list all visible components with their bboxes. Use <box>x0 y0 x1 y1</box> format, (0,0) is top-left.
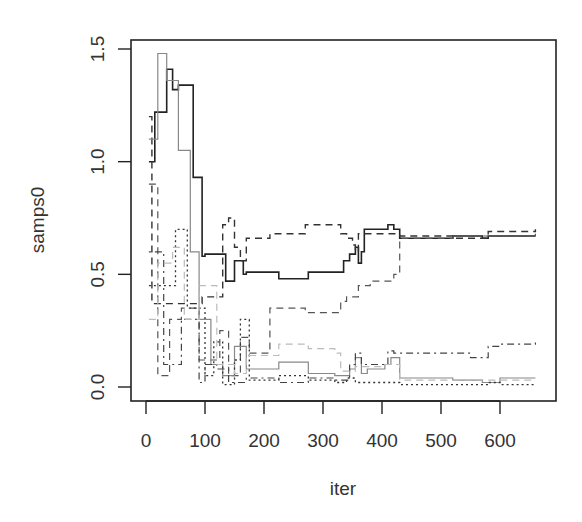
x-tick-label: 600 <box>484 430 516 451</box>
x-tick-label: 100 <box>189 430 221 451</box>
x-axis-label: iter <box>330 478 357 499</box>
y-tick-label: 0.0 <box>87 374 108 400</box>
chart-root: 0100200300400500600 0.00.51.01.5 iter sa… <box>0 0 582 522</box>
series-line-6 <box>149 229 536 384</box>
y-tick-label: 1.0 <box>87 148 108 174</box>
x-tick-label: 200 <box>248 430 280 451</box>
step-line-plot: 0100200300400500600 0.00.51.01.5 iter sa… <box>0 0 582 522</box>
x-tick-label: 300 <box>307 430 339 451</box>
series-line-1 <box>149 69 536 281</box>
y-tick-label: 1.5 <box>87 36 108 62</box>
y-tick-label: 0.5 <box>87 261 108 287</box>
y-axis-label: samps0 <box>27 187 48 254</box>
series-line-4 <box>149 54 536 383</box>
x-tick-label: 500 <box>425 430 457 451</box>
x-tick-label: 0 <box>141 430 152 451</box>
series-line-2 <box>149 117 536 304</box>
series-layer <box>149 54 536 385</box>
series-line-3 <box>149 184 536 376</box>
plot-frame <box>131 40 556 401</box>
x-axis: 0100200300400500600 <box>141 401 516 451</box>
y-axis: 0.00.51.01.5 <box>87 36 131 400</box>
x-tick-label: 400 <box>366 430 398 451</box>
series-line-7 <box>149 247 536 380</box>
